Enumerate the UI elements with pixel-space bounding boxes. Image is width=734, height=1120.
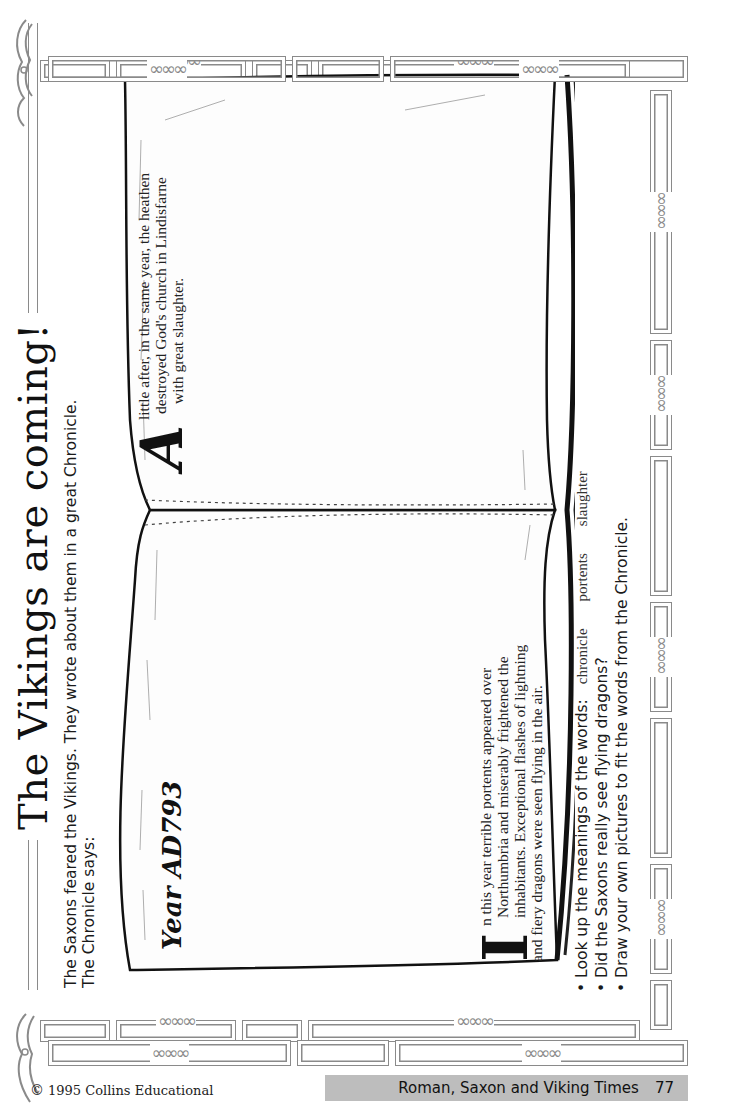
right-page-text: little after, in the same year, the heat… xyxy=(135,173,186,420)
year-heading: Year AD793 xyxy=(157,781,187,950)
task-list: • Look up the meanings of the words: chr… xyxy=(572,471,632,992)
left-page-text: n this year terrible portents appeared o… xyxy=(477,645,545,926)
task-item: • Look up the meanings of the words: chr… xyxy=(572,471,592,992)
border-bottom-screen: ∞∞∞ ∞∞∞ xyxy=(48,1040,688,1066)
vocab-word: chronicle xyxy=(574,628,590,684)
vocab-word: slaughter xyxy=(574,471,590,526)
intro-line-1: The Saxons feared the Vikings. They wrot… xyxy=(62,400,80,988)
celtic-knot-icon: ∞∞∞ xyxy=(454,1010,494,1032)
open-book-illustration: Year AD793 I n this year terrible porten… xyxy=(105,50,575,980)
title-row: The Vikings are coming! xyxy=(4,90,62,990)
vocab-word: portents xyxy=(574,553,590,601)
celtic-knot-icon: ∞∞∞ xyxy=(150,1042,190,1064)
footer-banner: Roman, Saxon and Viking Times 77 xyxy=(325,1075,688,1101)
border-bottom: ∞∞∞ ∞∞∞ ∞∞∞ ∞∞∞ xyxy=(650,90,672,1030)
page-title: The Vikings are coming! xyxy=(10,323,56,830)
intro-line-2: The Chronicle says: xyxy=(80,400,98,988)
intro-text: The Saxons feared the Vikings. They wrot… xyxy=(62,400,98,988)
celtic-knot-icon: ∞∞∞ xyxy=(650,375,672,415)
border-left: ∞∞∞ ∞∞∞ xyxy=(40,1020,640,1042)
celtic-knot-icon: ∞∞∞ xyxy=(156,1010,196,1032)
celtic-knot-icon: ∞∞∞ xyxy=(522,1042,562,1064)
dropcap-A: A xyxy=(133,425,191,470)
book-title: Roman, Saxon and Viking Times xyxy=(398,1079,639,1097)
task-item: • Draw your own pictures to fit the word… xyxy=(612,471,632,992)
celtic-knot-icon: ∞∞∞ xyxy=(650,637,672,677)
page-number: 77 xyxy=(655,1079,674,1097)
border-top: ∞∞∞ ∞∞∞ xyxy=(48,56,688,82)
celtic-knot-icon: ∞∞∞ xyxy=(650,192,672,232)
copyright-icon: © xyxy=(30,1082,44,1098)
task-item: • Did the Saxons really see flying drago… xyxy=(592,471,612,992)
celtic-knot-icon: ∞∞∞ xyxy=(650,899,672,939)
celtic-knot-icon: ∞∞∞ xyxy=(147,58,187,80)
title-rule-left xyxy=(28,840,38,990)
dragon-head-icon xyxy=(8,18,42,128)
celtic-knot-icon: ∞∞∞ xyxy=(519,58,559,80)
copyright-notice: ©1995 Collins Educational xyxy=(30,1082,213,1098)
worksheet-rotated: The Vikings are coming! The Saxons feare… xyxy=(0,40,700,1050)
